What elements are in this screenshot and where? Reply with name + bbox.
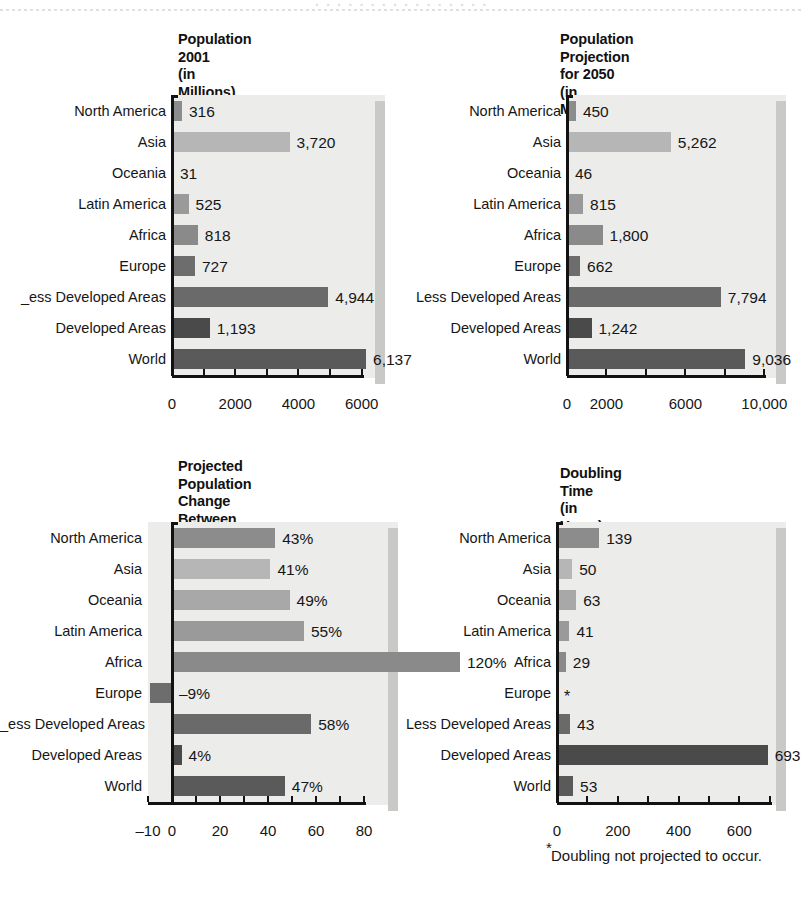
x-axis-tick [267, 796, 269, 802]
x-axis-tick-label: 80 [324, 823, 404, 838]
bar-value-label: 53 [580, 779, 597, 794]
category-label: Less Developed Areas [0, 290, 561, 305]
category-label: Africa [0, 655, 551, 670]
bar-value-label: 450 [583, 104, 609, 119]
category-label: Europe [0, 259, 561, 274]
x-axis-tick [339, 796, 341, 802]
scan-top-rule [0, 9, 803, 11]
category-label: Developed Areas [0, 748, 551, 763]
x-axis-line [557, 802, 772, 805]
category-label: North America [0, 531, 551, 546]
bar-value-label: 41 [576, 624, 593, 639]
bar-value-label: 662 [587, 259, 613, 274]
bar [567, 194, 583, 214]
bar [567, 287, 721, 307]
bar [557, 745, 768, 765]
category-label: Africa [0, 228, 561, 243]
x-axis-tick [605, 369, 607, 375]
x-axis-tick-label: 2000 [566, 396, 646, 411]
x-axis-tick [297, 369, 299, 375]
bar-value-label: 46 [575, 166, 592, 181]
bar-value-label: 7,794 [728, 290, 767, 305]
x-axis-tick [315, 796, 317, 802]
x-axis-tick [171, 369, 173, 375]
chart-title: Population 2001 (in Millions) [178, 31, 251, 101]
plot-background-shadow [776, 528, 786, 811]
plot-background-shadow [776, 101, 786, 384]
bar [557, 776, 573, 796]
y-axis-top-cap [171, 95, 178, 98]
x-axis-tick [363, 796, 365, 802]
category-label: World [0, 352, 561, 367]
x-axis-tick [738, 796, 740, 802]
category-label: Asia [0, 135, 561, 150]
x-axis-tick [769, 796, 771, 802]
x-axis-tick [234, 369, 236, 375]
bar [557, 590, 576, 610]
x-axis-tick [763, 369, 765, 375]
bar-value-label: 815 [590, 197, 616, 212]
x-axis-tick-label: 6000 [645, 396, 725, 411]
x-axis-tick [617, 796, 619, 802]
x-axis-tick [203, 369, 205, 375]
bar-value-label: 139 [606, 531, 632, 546]
bar [567, 225, 603, 245]
bar-value-label: 63 [583, 593, 600, 608]
footnote-text: Doubling not projected to occur. [551, 847, 762, 864]
y-axis-line [556, 522, 559, 803]
x-axis-tick [219, 796, 221, 802]
x-axis-tick [724, 369, 726, 375]
x-axis-tick-label: 600 [699, 823, 779, 838]
bar-value-label: 1,242 [599, 321, 638, 336]
x-axis-tick [708, 796, 710, 802]
bar-value-label: * [564, 692, 570, 702]
x-axis-tick [291, 796, 293, 802]
x-axis-tick-label: 10,000 [724, 396, 803, 411]
x-axis-line [172, 375, 364, 378]
x-axis-tick [647, 796, 649, 802]
category-label: Asia [0, 562, 551, 577]
x-axis-tick [329, 369, 331, 375]
bar-value-label: 50 [579, 562, 596, 577]
bar-value-label: 9,036 [752, 352, 791, 367]
scan-top-fragment: · · · · · · · · · · · · · · · · [0, 0, 803, 9]
x-axis-tick [684, 369, 686, 375]
x-axis-tick [243, 796, 245, 802]
category-label: Latin America [0, 624, 551, 639]
y-axis-top-cap [171, 522, 178, 525]
x-axis-tick [147, 796, 149, 802]
category-label: Oceania [0, 593, 551, 608]
category-label: World [0, 779, 551, 794]
category-label: Europe [0, 686, 551, 701]
x-axis-tick [361, 369, 363, 375]
x-axis-tick [266, 369, 268, 375]
bar-value-label: 1,800 [610, 228, 649, 243]
x-axis-tick [171, 796, 173, 802]
bar [557, 559, 572, 579]
bar-value-label: 43 [577, 717, 594, 732]
plot-area: 4505,262468151,8006627,7941,2429,036 [567, 95, 788, 387]
x-axis-tick [645, 369, 647, 375]
category-label: North America [0, 104, 561, 119]
bar-value-label: 693 [775, 748, 801, 763]
x-axis-tick-label: 6000 [322, 396, 402, 411]
y-axis-top-cap [566, 95, 573, 98]
category-label: Latin America [0, 197, 561, 212]
bar-value-label: 29 [573, 655, 590, 670]
y-axis-top-cap [556, 522, 563, 525]
bar-value-label: 5,262 [678, 135, 717, 150]
category-label: Oceania [0, 166, 561, 181]
bar [567, 318, 592, 338]
x-axis-tick [678, 796, 680, 802]
x-axis-line [567, 375, 766, 378]
category-label: Less Developed Areas [0, 717, 551, 732]
bar [567, 132, 671, 152]
bar [567, 349, 745, 369]
category-label: Developed Areas [0, 321, 561, 336]
x-axis-tick [586, 796, 588, 802]
plot-area: 13950634129*4369353 [557, 522, 788, 814]
x-axis-tick [566, 369, 568, 375]
x-axis-tick [195, 796, 197, 802]
bar [557, 528, 599, 548]
y-axis-line [566, 95, 569, 376]
